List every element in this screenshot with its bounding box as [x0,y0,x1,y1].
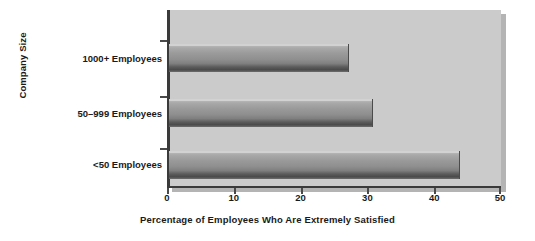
y-axis-tick-label-1000plus: 1000+ Employees [32,53,162,64]
bar-highlight [169,99,372,101]
y-axis-tick-mark [160,40,167,42]
y-axis-tick-label-under50: <50 Employees [32,159,162,170]
plot-area [167,10,501,188]
bar-50-999-employees [169,99,373,127]
x-axis-tick-label-20: 20 [281,192,321,203]
x-axis-tick-label-10: 10 [214,192,254,203]
x-axis-line [167,186,501,189]
y-axis-tick-mark [160,96,167,98]
y-axis-tick-mark [160,148,167,150]
plot-inner-area [167,10,501,188]
x-axis-tick-label-40: 40 [414,192,454,203]
bar-highlight [169,44,348,46]
x-axis-tick-label-50: 50 [480,192,520,203]
x-axis-tick-label-0: 0 [147,192,187,203]
y-axis-title: Company Size [17,6,28,126]
x-axis-title: Percentage of Employees Who Are Extremel… [0,214,535,225]
x-axis-tick-label-30: 30 [347,192,387,203]
bar-under-50-employees [169,151,460,179]
y-axis-tick-labels: 1000+ Employees 50–999 Employees <50 Emp… [28,0,162,200]
bar-1000plus-employees [169,44,349,72]
bar-highlight [169,151,459,153]
y-axis-tick-label-50-999: 50–999 Employees [32,108,162,119]
